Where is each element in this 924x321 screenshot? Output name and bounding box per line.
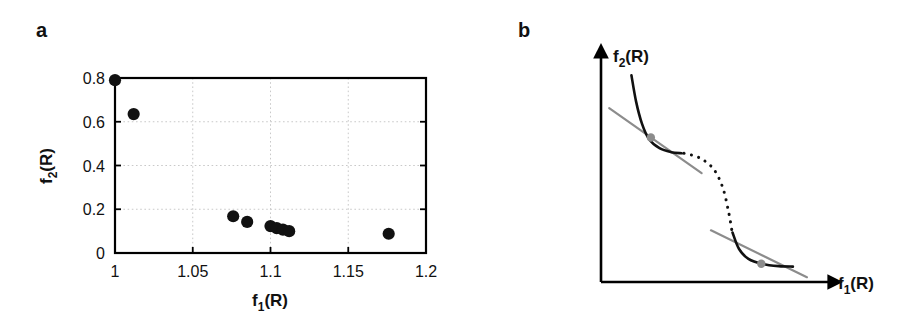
y-axis-title-tail: (R): [625, 47, 649, 66]
data-point: [109, 74, 121, 86]
x-tick-label: 1.15: [333, 263, 364, 280]
y-tick-label: 0.8: [83, 70, 105, 87]
panel-a-label: a: [36, 20, 47, 40]
data-point: [227, 210, 239, 222]
y-axis-title: f2(R): [613, 47, 649, 70]
data-points-group: [109, 74, 395, 240]
data-point: [383, 228, 395, 240]
figure-container: a 11.051.11.151.2 00.20.40.60.8 f1(R) f2…: [0, 0, 924, 321]
y-tick-label: 0: [96, 245, 105, 262]
upper-tangent-line: [609, 108, 701, 173]
pareto-front-group: [631, 75, 792, 266]
upper-tangent-point: [647, 133, 655, 141]
lower-tangent-line: [711, 230, 807, 277]
x-axis-title-tail: (R): [850, 274, 874, 293]
y-tick-label: 0.2: [83, 201, 105, 218]
x-axis-title: f1(R): [838, 274, 874, 297]
x-axis-title: f1(R): [252, 291, 288, 314]
y-tick-label: 0.6: [83, 114, 105, 131]
panel-a: a 11.051.11.151.2 00.20.40.60.8 f1(R) f2…: [0, 0, 470, 321]
data-point: [283, 225, 295, 237]
tangent-lines-group: [609, 108, 807, 277]
x-axis-title-tail: (R): [264, 291, 288, 310]
x-tick-label: 1.05: [177, 263, 208, 280]
panel-b: b f2(R) f1(R): [470, 0, 924, 321]
y-tick-labels: 00.20.40.60.8: [83, 70, 105, 262]
y-tick-label: 0.4: [83, 158, 105, 175]
data-point: [241, 216, 253, 228]
x-tick-label: 1.1: [259, 263, 281, 280]
scatter-plot-panel-a: 11.051.11.151.2 00.20.40.60.8 f1(R) f2(R…: [0, 0, 470, 321]
x-tick-label: 1.2: [415, 263, 437, 280]
x-tick-labels: 11.051.11.151.2: [111, 263, 438, 280]
y-axis-title: f2(R): [37, 148, 60, 184]
lower-tangent-point: [757, 260, 765, 268]
schematic-plot-panel-b: f2(R) f1(R): [470, 0, 924, 321]
data-point: [128, 108, 140, 120]
y-axis-title-tail: (R): [37, 148, 56, 172]
panel-b-label: b: [518, 20, 530, 40]
x-tick-label: 1: [111, 263, 120, 280]
